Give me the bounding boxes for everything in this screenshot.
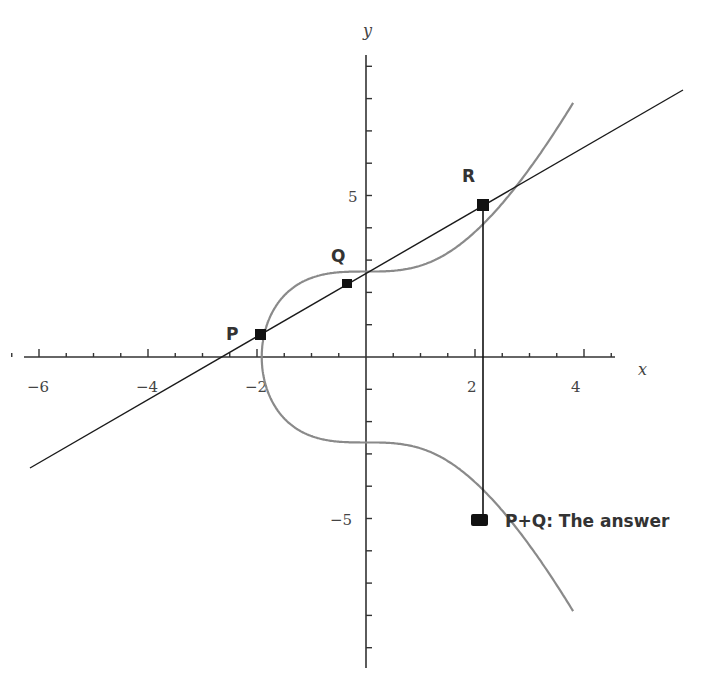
elliptic-curve-plot: −6 −4 −2 2 4 5 −5 x y P Q R P+Q: The ans… [0,0,726,695]
x-tick-label: −4 [136,378,158,396]
x-tick-label: 4 [571,378,581,396]
y-axis-label: y [362,21,373,40]
secant-line [30,90,683,468]
point-r-marker [477,199,489,211]
y-tick-label: −5 [330,511,352,529]
x-tick-label: −6 [27,378,49,396]
point-p-label: P [226,324,238,344]
x-axis-ticks [12,349,612,357]
y-tick-label: 5 [348,188,358,206]
point-q-label: Q [331,246,345,266]
point-q-marker [342,279,352,288]
answer-label: P+Q: The answer [505,511,670,531]
point-r-label: R [462,166,475,186]
x-tick-label: 2 [467,378,477,396]
x-axis-label: x [638,360,647,379]
point-sum-marker [471,514,488,526]
point-p-marker [255,329,266,340]
